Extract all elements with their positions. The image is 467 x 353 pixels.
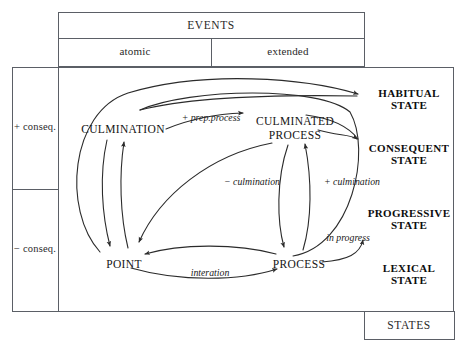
edge-culminated-process-to-point — [139, 143, 272, 242]
aspectual-class-diagram: EVENTS atomic extended + conseq. − conse… — [0, 0, 467, 353]
edge-culmination-to-point — [102, 140, 110, 246]
edge-process-to-point — [145, 246, 276, 254]
state-habitual-line1: HABITUAL — [378, 87, 439, 99]
edge-label-minus-culmination: − culmination — [224, 177, 280, 188]
edge-point-to-culmination — [121, 142, 128, 248]
axis-label-minus-consequence: − conseq. — [14, 243, 56, 255]
node-culminated-process-line1: CULMINATED — [256, 115, 334, 128]
state-lexical-line1: LEXICAL — [383, 262, 436, 274]
state-progressive-line1: PROGRESSIVE — [368, 207, 451, 219]
state-habitual: HABITUAL STATE — [378, 87, 439, 112]
state-consequent-line2: STATE — [369, 154, 450, 166]
state-progressive: PROGRESSIVE STATE — [368, 207, 451, 232]
state-habitual-line2: STATE — [378, 99, 439, 111]
node-point: POINT — [106, 258, 142, 271]
edge-label-in-progress: in progress — [326, 233, 370, 244]
event-subtype-extended: extended — [267, 45, 308, 57]
node-process: PROCESS — [273, 258, 325, 271]
edge-label-prep-process: + prep.process — [182, 113, 241, 124]
state-lexical-line2: STATE — [383, 274, 436, 286]
states-box-label: STATES — [387, 319, 431, 332]
node-culmination: CULMINATION — [81, 123, 165, 136]
edge-label-plus-culmination: + culmination — [324, 177, 380, 188]
state-consequent: CONSEQUENT STATE — [369, 142, 450, 167]
edge-label-interation: interation — [191, 268, 230, 279]
events-box-label: EVENTS — [187, 19, 235, 32]
axis-label-plus-consequence: + conseq. — [14, 121, 56, 133]
node-culminated-process-line2: PROCESS — [269, 129, 321, 142]
edge-point-to-habitual — [77, 79, 358, 252]
state-progressive-line2: STATE — [368, 219, 451, 231]
edge-culmination-upper-arc — [140, 96, 357, 110]
state-lexical: LEXICAL STATE — [383, 262, 436, 287]
edge-process-to-culminated-process — [303, 144, 310, 250]
edge-culminated-process-to-process — [279, 145, 288, 247]
event-subtype-atomic: atomic — [119, 45, 150, 57]
state-consequent-line1: CONSEQUENT — [369, 142, 450, 154]
